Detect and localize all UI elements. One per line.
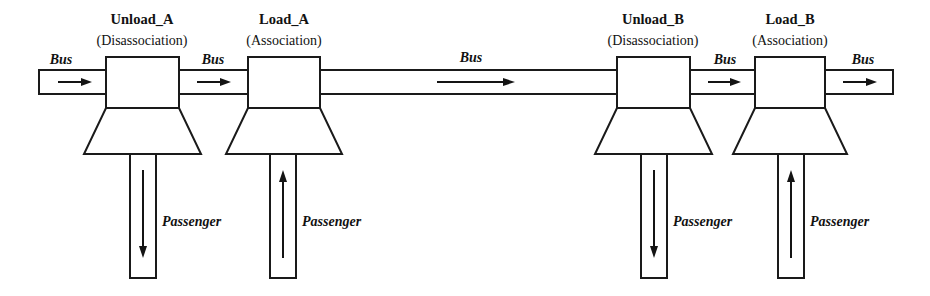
passenger-label-unload-a: Passenger [162, 214, 222, 229]
node-load-a-title: Load_A [259, 11, 309, 27]
bus-label-segment-a: Bus [201, 52, 225, 67]
node-unload-b-funnel[interactable] [595, 108, 712, 154]
node-unload-a-box[interactable] [106, 57, 179, 108]
node-unload-a-title: Unload_A [111, 11, 174, 27]
node-load-a-subtitle: (Association) [246, 33, 322, 49]
node-unload-b-title: Unload_B [622, 11, 684, 27]
node-unload-b-box[interactable] [617, 57, 690, 108]
node-load-b-subtitle: (Association) [752, 33, 828, 49]
node-load-b-title: Load_B [765, 11, 814, 27]
node-load-a-funnel[interactable] [226, 108, 342, 154]
passenger-labels-group: Passenger Passenger Passenger Passenger [162, 214, 870, 229]
node-unload-a-funnel[interactable] [84, 108, 201, 154]
bus-label-outlet: Bus [851, 52, 875, 67]
node-load-b-box[interactable] [755, 57, 825, 108]
bus-label-inlet: Bus [49, 52, 73, 67]
node-load-a-box[interactable] [248, 57, 320, 108]
bus-label-segment-b: Bus [713, 52, 737, 67]
bus-label-middle: Bus [459, 50, 483, 65]
passenger-label-load-b: Passenger [810, 214, 870, 229]
node-load-b-funnel[interactable] [733, 108, 847, 154]
diagram-canvas: Unload_A (Disassociation) Load_A (Associ… [0, 0, 930, 296]
bus-passenger-flow-diagram: Unload_A (Disassociation) Load_A (Associ… [0, 0, 930, 296]
passenger-label-load-a: Passenger [302, 214, 362, 229]
node-unload-b-subtitle: (Disassociation) [608, 33, 699, 49]
node-unload-a-subtitle: (Disassociation) [97, 33, 188, 49]
passenger-label-unload-b: Passenger [673, 214, 733, 229]
